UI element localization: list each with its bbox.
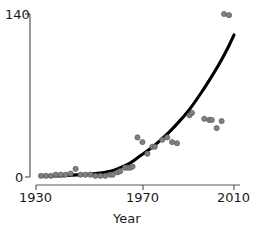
scatter-point bbox=[88, 172, 93, 177]
scatter-point bbox=[189, 110, 194, 115]
scatter-point bbox=[130, 164, 135, 169]
scatter-point bbox=[118, 169, 123, 174]
trend-line bbox=[41, 35, 234, 176]
scatter-point bbox=[78, 172, 83, 177]
scatter-point bbox=[38, 173, 43, 178]
scatter-point bbox=[83, 172, 88, 177]
scatter-point bbox=[209, 117, 214, 122]
scatter-point bbox=[222, 11, 227, 16]
y-axis-label-140: 140 bbox=[5, 7, 30, 22]
scatter-point bbox=[103, 173, 108, 178]
scatter-point bbox=[160, 137, 165, 142]
x-axis-title: Year bbox=[113, 211, 141, 226]
scatter-point bbox=[63, 172, 68, 177]
scatter-point bbox=[170, 139, 175, 144]
scatter-point bbox=[48, 173, 53, 178]
x-axis-label-1930: 1930 bbox=[19, 190, 52, 205]
scatter-point bbox=[135, 135, 140, 140]
scatter-point bbox=[152, 144, 157, 149]
scatter-point bbox=[226, 13, 231, 18]
scatter-point bbox=[53, 172, 58, 177]
scatter-point bbox=[110, 172, 115, 177]
x-axis-label-1970: 1970 bbox=[126, 190, 159, 205]
scatter-point bbox=[165, 135, 170, 140]
scatter-point bbox=[68, 171, 73, 176]
scatter-point bbox=[145, 151, 150, 156]
scatter-point bbox=[43, 173, 48, 178]
chart-container: 140 0 1930 1970 2010 Year bbox=[0, 0, 257, 234]
scatter-point bbox=[202, 116, 207, 121]
scatter-point bbox=[140, 139, 145, 144]
y-axis-label-0: 0 bbox=[15, 170, 23, 185]
scatter-point bbox=[98, 173, 103, 178]
scatter-point bbox=[214, 126, 219, 131]
scatter-point bbox=[58, 172, 63, 177]
scatter-point bbox=[73, 166, 78, 171]
x-axis-label-2010: 2010 bbox=[217, 190, 250, 205]
scatter-point bbox=[174, 141, 179, 146]
scatter-point bbox=[219, 119, 224, 124]
scatter-point bbox=[93, 173, 98, 178]
scatter-points bbox=[38, 11, 231, 178]
